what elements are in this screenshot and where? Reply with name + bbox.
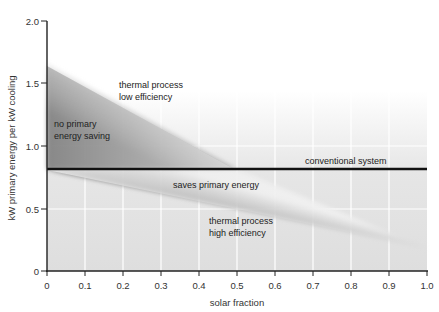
x-tick-label: 0.3: [154, 280, 167, 291]
y-tick-labels: 2.0 1.5 1.0 0.5 0: [26, 16, 39, 277]
y-tick-label: 0: [34, 266, 39, 277]
y-ticks: [41, 21, 47, 271]
x-tick-label: 0.2: [116, 280, 129, 291]
annotation-high-efficiency: high efficiency: [209, 228, 266, 238]
y-tick-label: 2.0: [26, 16, 39, 27]
x-tick-label: 0: [44, 280, 49, 291]
x-tick-label: 0.6: [268, 280, 281, 291]
chart: 2.0 1.5 1.0 0.5 0 0 0.1 0.2 0.3 0.4 0.5 …: [0, 0, 439, 312]
x-tick-labels: 0 0.1 0.2 0.3 0.4 0.5 0.6 0.7 0.8 0.9 1.…: [44, 280, 433, 291]
annotation-conventional-system: conventional system: [305, 156, 387, 166]
x-tick-label: 1.0: [420, 280, 433, 291]
annotation-low-efficiency: low efficiency: [119, 92, 173, 102]
annotation-no-saving: no primary: [54, 119, 97, 129]
x-tick-label: 0.1: [78, 280, 91, 291]
y-tick-label: 1.5: [26, 78, 39, 89]
annotation-saves-energy: saves primary energy: [173, 180, 260, 190]
annotation-no-saving: energy saving: [54, 131, 110, 141]
y-tick-label: 0.5: [26, 204, 39, 215]
annotation-high-efficiency: thermal process: [209, 216, 274, 226]
y-tick-label: 1.0: [26, 141, 39, 152]
x-tick-label: 0.8: [344, 280, 357, 291]
x-axis-title: solar fraction: [210, 297, 264, 308]
x-tick-label: 0.9: [382, 280, 395, 291]
x-tick-label: 0.5: [230, 280, 243, 291]
x-ticks: [47, 271, 427, 276]
x-tick-label: 0.4: [192, 280, 205, 291]
annotation-low-efficiency: thermal process: [119, 80, 184, 90]
x-tick-label: 0.7: [306, 280, 319, 291]
y-axis-title: kW primary energy per kW cooling: [6, 75, 17, 220]
